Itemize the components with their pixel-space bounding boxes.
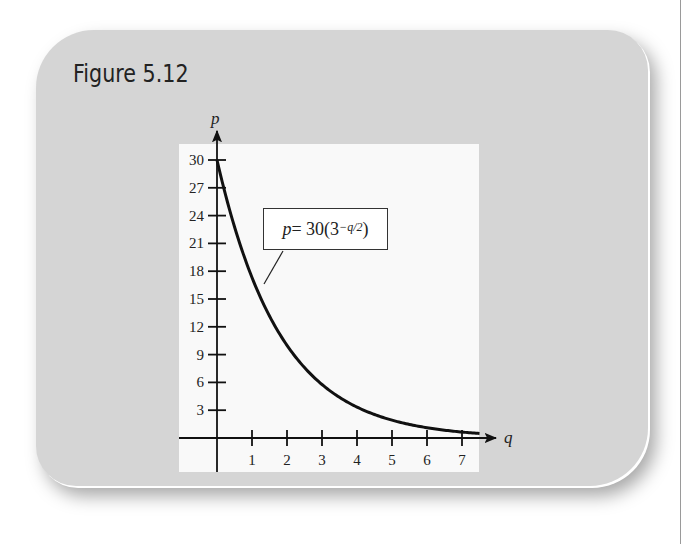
x-axis-label: q — [504, 428, 513, 447]
equation-exponent: −q/2 — [339, 220, 362, 235]
y-tick-label: 6 — [197, 374, 205, 390]
equation-close: ) — [363, 219, 369, 240]
x-tick-label: 3 — [318, 452, 326, 468]
y-tick-label: 30 — [189, 152, 204, 168]
x-tick-label: 4 — [353, 452, 361, 468]
x-tick-label: 5 — [388, 452, 396, 468]
equation-label: p = 30(3−q/2) — [263, 208, 388, 250]
label-leader-line — [264, 251, 283, 284]
x-tick-label: 6 — [423, 452, 431, 468]
x-tick-label: 1 — [248, 452, 256, 468]
y-tick-label: 27 — [189, 180, 205, 196]
equation-body: = 30(3 — [291, 219, 339, 240]
x-tick-label: 7 — [458, 452, 466, 468]
axes — [179, 131, 496, 472]
x-tick-label: 2 — [283, 452, 291, 468]
y-axis-label: p — [210, 109, 220, 128]
y-tick-label: 21 — [189, 235, 204, 251]
equation-lhs: p — [282, 219, 291, 240]
y-tick-label: 18 — [189, 263, 204, 279]
y-tick-label: 12 — [189, 319, 204, 335]
y-tick-label: 3 — [197, 402, 205, 418]
y-ticks: 36912151821242730 — [189, 152, 226, 418]
y-tick-label: 15 — [189, 291, 204, 307]
chart-svg: 1234567 36912151821242730 q p — [0, 0, 688, 544]
y-tick-label: 24 — [189, 208, 205, 224]
data-curve — [217, 160, 480, 433]
y-tick-label: 9 — [197, 347, 205, 363]
x-ticks: 1234567 — [248, 430, 466, 468]
